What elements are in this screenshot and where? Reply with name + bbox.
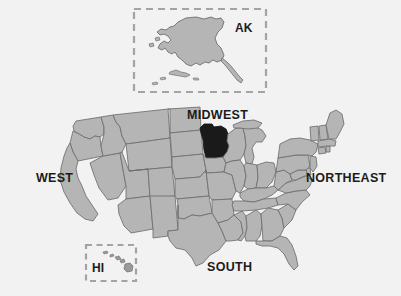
alaska-shape <box>149 17 243 85</box>
inset-label-hawaii: HI <box>92 262 104 274</box>
state-ne <box>172 154 206 179</box>
region-label-south: SOUTH <box>207 261 252 274</box>
state-wy <box>126 138 172 171</box>
state-al <box>245 210 262 241</box>
us-region-map-figure: WEST MIDWEST NORTHEAST SOUTH AK HI <box>0 0 401 296</box>
region-label-west: WEST <box>36 172 73 185</box>
region-label-northeast: NORTHEAST <box>306 172 386 185</box>
state-az <box>118 196 153 233</box>
state-ri <box>326 146 330 152</box>
state-in <box>244 163 258 189</box>
state-sd <box>170 130 203 157</box>
state-vt <box>310 126 319 141</box>
state-oh <box>256 162 276 188</box>
region-label-midwest: MIDWEST <box>187 109 248 122</box>
state-ct <box>318 147 326 154</box>
state-nj <box>310 156 317 172</box>
state-me <box>326 110 344 139</box>
state-nc <box>276 190 310 210</box>
state-mn-highlight <box>200 124 229 158</box>
state-fl <box>256 236 298 270</box>
us-map-svg <box>0 0 401 296</box>
inset-label-alaska: AK <box>235 22 253 34</box>
hawaii-shape <box>103 251 133 272</box>
state-nv <box>90 153 126 200</box>
contiguous-us-states <box>60 107 344 270</box>
state-mi <box>243 126 266 164</box>
